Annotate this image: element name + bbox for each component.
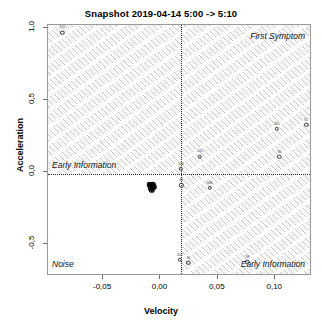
x-axis-tick-label: 0,05 — [209, 282, 225, 291]
data-point[interactable] — [153, 184, 157, 188]
x-axis-tick — [217, 275, 218, 279]
x-axis-tick — [274, 275, 275, 279]
y-axis-tick-label: -0,5 — [27, 232, 36, 254]
annotation-noise: Noise — [52, 259, 74, 269]
x-axis-tick-label: -0,05 — [93, 282, 111, 291]
plot-area: 5153386113016290886864529698 First Sympt… — [47, 24, 311, 275]
x-axis-tick-label: 0,00 — [152, 282, 168, 291]
x-axis-label: Velocity — [0, 306, 322, 316]
point-label: 90 — [277, 150, 281, 154]
point-label: 452 — [177, 253, 183, 257]
chart-title: Snapshot 2019-04-14 5:00 -> 5:10 — [0, 8, 322, 19]
point-label: 301 — [274, 122, 280, 126]
point-label: 515 — [59, 25, 65, 29]
chart-canvas: Snapshot 2019-04-14 5:00 -> 5:10 Acceler… — [0, 0, 322, 326]
y-axis-tick-label: 0,5 — [27, 88, 36, 110]
data-point[interactable] — [150, 188, 154, 192]
x-axis-tick — [159, 275, 160, 279]
x-axis-tick — [102, 275, 103, 279]
y-axis-tick-label: 0,0 — [27, 160, 36, 182]
y-axis-tick-label: 1,0 — [27, 15, 36, 37]
y-axis-tick — [43, 171, 47, 172]
point-label: 611 — [197, 149, 202, 153]
y-axis-label: Acceleration — [15, 85, 25, 205]
point-label: 686 — [207, 181, 213, 185]
annotation-early-information-left: Early Information — [52, 160, 116, 170]
point-label: 338 — [178, 162, 184, 166]
annotation-early-information-bottom-right: Early Information — [241, 259, 305, 269]
horizontal-reference-line — [48, 174, 310, 175]
x-axis-tick-label: 0,10 — [266, 282, 282, 291]
vertical-reference-line — [181, 25, 182, 274]
hatched-region-upper — [48, 25, 310, 174]
point-label: 96 — [186, 256, 190, 260]
point-label: 88 — [179, 178, 183, 182]
y-axis-tick — [43, 243, 47, 244]
y-axis-tick — [43, 99, 47, 100]
annotation-first-symptom: First Symptom — [250, 31, 305, 41]
point-label: 62 — [304, 118, 308, 122]
y-axis-tick — [43, 27, 47, 28]
